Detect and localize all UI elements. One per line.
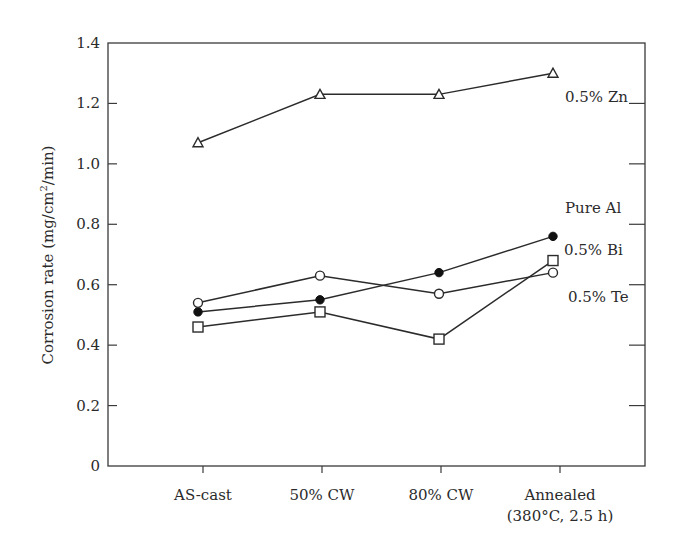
series-0-5-bi [193, 256, 558, 345]
series-0-5-zn [193, 68, 558, 146]
y-axis-ticks: 00.20.40.60.81.01.21.4 [76, 34, 645, 475]
open-circle-marker [549, 268, 558, 277]
data-series [193, 68, 558, 344]
filled-circle-marker [549, 232, 557, 240]
triangle-marker [193, 138, 203, 147]
square-marker [193, 322, 203, 332]
series-line [198, 73, 553, 142]
x-axis-ticks: AS-cast50% CW80% CWAnnealed(380°C, 2.5 h… [173, 466, 613, 525]
x-tick-label: AS-cast [173, 486, 232, 504]
series-labels: 0.5% Zn Pure Al 0.5% Bi 0.5% Te [564, 88, 629, 306]
y-tick-label: 1.4 [76, 34, 100, 52]
y-tick-label: 0.6 [76, 276, 100, 294]
square-marker [548, 256, 558, 266]
x-tick-label: 50% CW [289, 486, 355, 504]
y-tick-label: 0.2 [76, 397, 100, 415]
series-line [198, 236, 553, 312]
y-axis-title: Corrosion rate (mg/cm2/min) [38, 146, 57, 365]
open-circle-marker [316, 271, 325, 280]
open-circle-marker [435, 289, 444, 298]
x-tick-label: 80% CW [408, 486, 474, 504]
filled-circle-marker [194, 308, 202, 316]
x-tick-label: (380°C, 2.5 h) [507, 507, 614, 525]
label-zn: 0.5% Zn [565, 88, 628, 106]
square-marker [315, 307, 325, 317]
y-axis-label: Corrosion rate (mg/cm2/min) [38, 146, 57, 365]
label-bi: 0.5% Bi [564, 241, 623, 259]
y-tick-label: 0 [90, 457, 100, 475]
corrosion-rate-chart: 00.20.40.60.81.01.21.4 AS-cast50% CW80% … [0, 0, 677, 559]
x-tick-label: Annealed [523, 486, 596, 504]
series-pure-al [194, 232, 557, 316]
y-tick-label: 0.8 [76, 215, 100, 233]
label-te: 0.5% Te [568, 288, 629, 306]
series-line [198, 261, 553, 340]
filled-circle-marker [316, 296, 324, 304]
y-tick-label: 0.4 [76, 336, 100, 354]
triangle-marker [548, 68, 558, 77]
filled-circle-marker [435, 268, 443, 276]
y-tick-label: 1.0 [76, 155, 100, 173]
label-pure-al: Pure Al [565, 199, 621, 217]
square-marker [434, 334, 444, 344]
y-tick-label: 1.2 [76, 94, 100, 112]
open-circle-marker [194, 298, 203, 307]
